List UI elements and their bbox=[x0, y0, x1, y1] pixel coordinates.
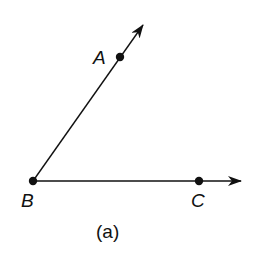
label-b: B bbox=[21, 190, 34, 211]
point-c bbox=[195, 177, 203, 185]
label-a: A bbox=[92, 47, 106, 68]
angle-diagram: A B C (a) bbox=[0, 0, 256, 254]
label-c: C bbox=[191, 190, 205, 211]
point-a bbox=[116, 53, 124, 61]
figure-caption: (a) bbox=[96, 221, 119, 242]
ray-ba bbox=[33, 25, 143, 181]
point-b-vertex bbox=[29, 177, 37, 185]
